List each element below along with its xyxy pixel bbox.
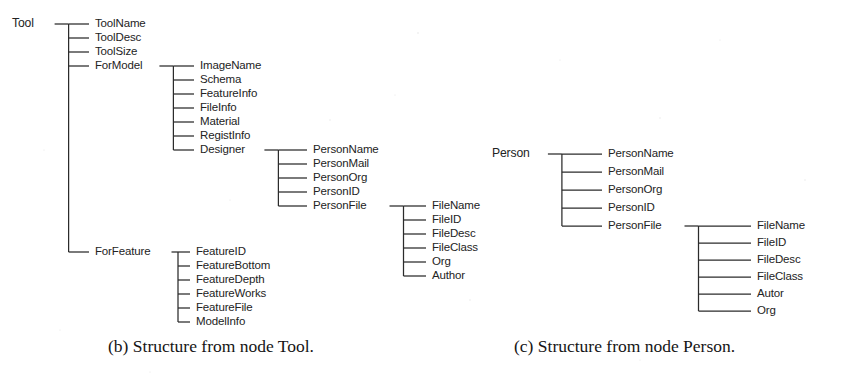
tree-node-label[interactable]: FeatureInfo <box>200 87 257 99</box>
tree-node-label[interactable]: ForModel <box>95 59 142 71</box>
tree-node-label[interactable]: FileDesc <box>432 227 476 239</box>
tree-node-label[interactable]: FileDesc <box>757 253 801 265</box>
tree-node-label[interactable]: FeatureID <box>196 245 246 257</box>
tree-node-label[interactable]: FileClass <box>432 241 478 253</box>
tree-node-label[interactable]: Schema <box>200 73 242 85</box>
tree-node-label[interactable]: FileInfo <box>200 101 237 113</box>
tree-node-label[interactable]: PersonMail <box>608 165 664 177</box>
tree-node-label[interactable]: RegistInfo <box>200 129 250 141</box>
tree-node-label[interactable]: FeatureBottom <box>196 259 270 271</box>
tree-node-label[interactable]: PersonFile <box>608 219 661 231</box>
tree-node-label[interactable]: PersonMail <box>313 157 369 169</box>
tree-node-label[interactable]: FileID <box>757 236 786 248</box>
tree-node-label[interactable]: ForFeature <box>95 245 150 257</box>
caption-figure-c: (c) Structure from node Person. <box>514 336 735 357</box>
tree-node-label[interactable]: ModelInfo <box>196 315 245 327</box>
tree-node-label[interactable]: FeatureFile <box>196 301 253 313</box>
tree-node-label[interactable]: Designer <box>200 143 245 155</box>
tree-node-label[interactable]: FeatureDepth <box>196 273 265 285</box>
tree-node-label[interactable]: PersonOrg <box>608 183 662 195</box>
figure-container: ToolToolNameToolDescToolSizeForModelImag… <box>0 0 843 379</box>
tree-node-label[interactable]: ToolSize <box>95 45 137 57</box>
tree-node-label[interactable]: Tool <box>12 16 34 30</box>
tree-node-label[interactable]: FileClass <box>757 270 803 282</box>
tree-node-label[interactable]: PersonFile <box>313 199 366 211</box>
tree-node-label[interactable]: Org <box>757 304 776 316</box>
tree-node-label[interactable]: PersonID <box>608 201 655 213</box>
tree-node-label[interactable]: Autor <box>757 287 784 299</box>
tree-node-label[interactable]: PersonName <box>313 143 379 155</box>
tree-node-label[interactable]: Author <box>432 269 465 281</box>
tree-node-label[interactable]: Person <box>492 146 530 160</box>
tree-node-label[interactable]: FileName <box>432 199 480 211</box>
tree-node-label[interactable]: ToolDesc <box>95 31 141 43</box>
tree-node-label[interactable]: ToolName <box>95 17 146 29</box>
tree-node-label[interactable]: FileID <box>432 213 461 225</box>
tree-node-label[interactable]: Material <box>200 115 240 127</box>
tree-node-label[interactable]: Org <box>432 255 451 267</box>
tree-node-label[interactable]: FileName <box>757 219 805 231</box>
tree-diagram-canvas: ToolToolNameToolDescToolSizeForModelImag… <box>0 0 843 379</box>
tree-node-label[interactable]: PersonID <box>313 185 360 197</box>
tree-node-label[interactable]: PersonOrg <box>313 171 367 183</box>
tree-node-label[interactable]: ImageName <box>200 59 261 71</box>
tree-node-label[interactable]: PersonName <box>608 147 674 159</box>
caption-figure-b: (b) Structure from node Tool. <box>108 336 314 357</box>
tree-node-label[interactable]: FeatureWorks <box>196 287 267 299</box>
